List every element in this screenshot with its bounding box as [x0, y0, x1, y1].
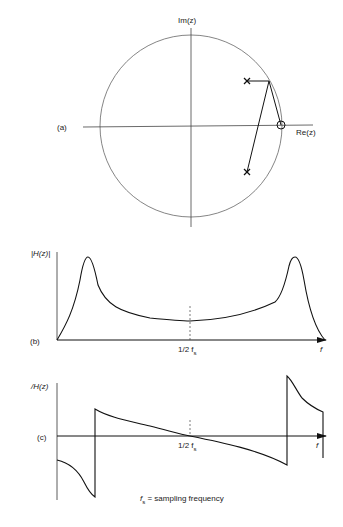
mid-tick-label: 1/2 fs [178, 345, 197, 356]
z-plane-diagram: Im(z) Re(z) (a) [57, 16, 316, 227]
footnote: fs = sampling frequency [140, 494, 224, 505]
pole-zero-figure: Im(z) Re(z) (a) |H(z)| (b) 1/2 fs f /H(z… [0, 0, 343, 527]
panel-b-label: (b) [30, 337, 40, 346]
panel-a-label: (a) [57, 123, 67, 132]
x-axis-label: f [316, 441, 319, 450]
y-axis-label: |H(z)| [31, 249, 50, 258]
magnitude-plot: |H(z)| (b) 1/2 fs f [30, 249, 326, 356]
panel-c-label: (c) [37, 433, 47, 442]
x-axis-label: f [320, 345, 323, 354]
mid-tick-label: 1/2 fs [178, 441, 197, 452]
im-axis-label: Im(z) [178, 16, 197, 25]
y-axis-label: /H(z) [30, 382, 49, 391]
phase-plot: /H(z) (c) 1/2 fs f [30, 376, 326, 500]
re-axis-label: Re(z) [296, 128, 316, 137]
magnitude-curve [57, 257, 325, 340]
re-axis [83, 125, 313, 127]
pole-vector [247, 81, 269, 172]
